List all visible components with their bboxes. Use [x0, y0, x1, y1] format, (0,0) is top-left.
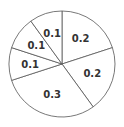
slice-label: 0.1: [21, 59, 39, 70]
slice-label: 0.1: [27, 40, 45, 51]
pie-chart: 0.20.20.30.10.10.1: [0, 0, 124, 127]
slice-label: 0.3: [43, 89, 61, 100]
slice-label: 0.1: [43, 28, 61, 39]
slice-label: 0.2: [83, 68, 101, 79]
slice-label: 0.2: [72, 33, 90, 44]
